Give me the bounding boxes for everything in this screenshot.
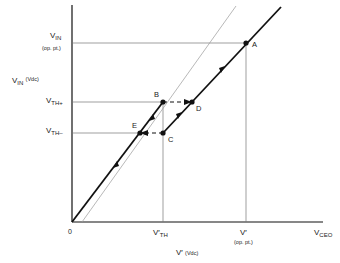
tick-vth-plus: VTH+: [46, 97, 63, 105]
tick-vth-prime: V′TH: [153, 229, 168, 237]
reference-line: [82, 6, 236, 222]
x-axis-title: V′ (Vdc): [176, 249, 198, 257]
tick-vth-minus: VTH–: [46, 127, 63, 135]
point-c-label: C: [168, 136, 173, 144]
point-b-label: B: [154, 91, 159, 99]
lower-path-line: [72, 102, 163, 222]
tick-vin-op: VIN: [50, 32, 61, 40]
point-e-label: E: [132, 122, 137, 130]
point-d-label: D: [196, 105, 201, 113]
point-b: [160, 99, 165, 104]
tick-vceo: VCEO: [314, 229, 332, 237]
point-c: [160, 130, 165, 135]
point-a: [243, 40, 248, 45]
tick-vop-prime-note: (op. pt.): [234, 240, 253, 246]
point-d: [189, 99, 194, 104]
tick-vop-prime: V′: [240, 229, 247, 237]
point-a-label: A: [252, 41, 257, 49]
point-e: [137, 130, 142, 135]
y-axis-title: VIN (Vdc): [12, 77, 39, 85]
origin-label: 0: [68, 228, 72, 235]
tick-vin-op-note: (op. pt.): [42, 46, 61, 52]
